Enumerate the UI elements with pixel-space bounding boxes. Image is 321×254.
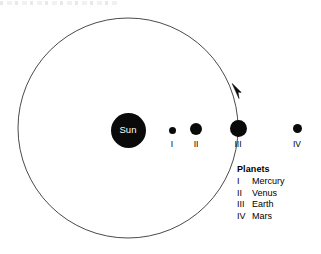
planet-body-earth xyxy=(230,120,247,137)
orbit-diagram: Sun I II III IV Planets I Mercury II Ven… xyxy=(0,0,321,254)
legend-name: Mars xyxy=(252,211,272,223)
legend-title: Planets xyxy=(237,163,319,175)
planet-tick-venus: II xyxy=(186,140,206,149)
sun-body: Sun xyxy=(111,113,146,148)
legend-item-venus: II Venus xyxy=(237,188,319,200)
sun-label: Sun xyxy=(119,125,136,135)
legend-numeral: III xyxy=(237,199,252,211)
legend-name: Mercury xyxy=(252,176,285,188)
planet-body-mercury xyxy=(169,127,176,134)
planet-tick-mars: IV xyxy=(287,140,307,149)
legend-numeral: I xyxy=(237,176,252,188)
legend-numeral: II xyxy=(237,188,252,200)
planet-body-venus xyxy=(190,123,202,135)
planet-tick-mercury: I xyxy=(162,140,182,149)
legend-name: Venus xyxy=(252,188,277,200)
legend-numeral: IV xyxy=(237,211,252,223)
legend: Planets I Mercury II Venus III Earth IV … xyxy=(237,163,319,222)
legend-item-mars: IV Mars xyxy=(237,211,319,223)
legend-item-mercury: I Mercury xyxy=(237,176,319,188)
legend-name: Earth xyxy=(252,199,274,211)
planet-body-mars xyxy=(293,124,302,133)
legend-item-earth: III Earth xyxy=(237,199,319,211)
planet-tick-earth: III xyxy=(228,140,248,149)
